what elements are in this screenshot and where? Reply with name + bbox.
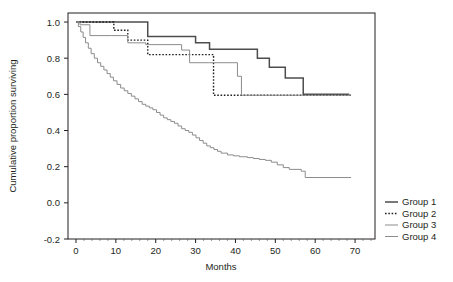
y-tick-label: 0.6 bbox=[47, 89, 60, 100]
x-tick-label: 0 bbox=[73, 245, 78, 256]
y-tick-label: 0.2 bbox=[47, 161, 60, 172]
y-tick-label: -0.2 bbox=[44, 234, 60, 245]
y-tick-label: 0.0 bbox=[47, 197, 60, 208]
x-tick-label: 40 bbox=[230, 245, 241, 256]
y-tick-label: 0.8 bbox=[47, 53, 60, 64]
x-tick-label: 50 bbox=[270, 245, 281, 256]
chart-canvas: 010203040506070 -0.20.00.20.40.60.81.0 M… bbox=[0, 0, 453, 282]
x-tick-label: 20 bbox=[150, 245, 161, 256]
x-axis-title: Months bbox=[205, 261, 236, 272]
legend-label-4: Group 4 bbox=[402, 231, 436, 242]
x-tick-label: 30 bbox=[190, 245, 201, 256]
legend-label-1: Group 1 bbox=[402, 196, 436, 207]
x-tick-label: 10 bbox=[111, 245, 122, 256]
legend-label-3: Group 3 bbox=[402, 219, 436, 230]
legend-label-2: Group 2 bbox=[402, 208, 436, 219]
plot-frame bbox=[68, 13, 375, 239]
y-tick-label: 1.0 bbox=[47, 17, 60, 28]
x-tick-label: 70 bbox=[350, 245, 361, 256]
x-axis-ticks: 010203040506070 bbox=[73, 239, 371, 256]
chart-legend: Group 1Group 2Group 3Group 4 bbox=[385, 196, 436, 242]
x-tick-label: 60 bbox=[310, 245, 321, 256]
series-line-4 bbox=[76, 22, 351, 177]
y-tick-label: 0.4 bbox=[47, 125, 60, 136]
y-axis-ticks: -0.20.00.20.40.60.81.0 bbox=[44, 17, 68, 245]
data-series-layer bbox=[76, 22, 351, 177]
y-axis-title: Cumulative proportion surviving bbox=[7, 59, 18, 192]
survival-chart-figure: 010203040506070 -0.20.00.20.40.60.81.0 M… bbox=[0, 0, 453, 282]
